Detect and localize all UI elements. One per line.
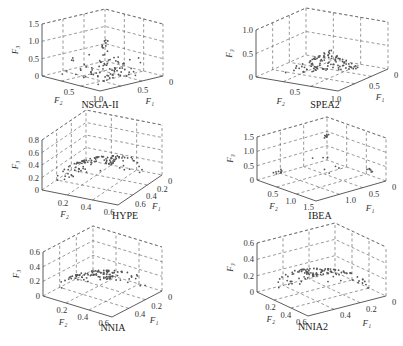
f1-axis-label: F₁: [144, 96, 154, 106]
svg-text:1.0: 1.0: [93, 94, 104, 104]
grid-lines: [256, 8, 388, 86]
axes-frame: [42, 140, 162, 205]
data-points: [60, 269, 146, 288]
z-axis-ticks: 00.51.01.5: [243, 132, 254, 185]
z-axis-label: F₃: [225, 263, 235, 273]
figure-canvas: NSGA-II 00.51.01.5F₃0.51.0F₂00.5F₁ SPEA2…: [0, 0, 403, 346]
z-axis-label: F₃: [11, 270, 21, 280]
svg-text:0: 0: [394, 70, 398, 80]
grid-lines: [42, 110, 162, 200]
f1-axis-label: F₁: [149, 315, 159, 325]
svg-text:0.6: 0.6: [104, 207, 115, 217]
z-axis-label: F₃: [224, 49, 234, 59]
svg-text:0.2: 0.2: [58, 198, 69, 208]
svg-text:0.2: 0.2: [366, 304, 377, 314]
svg-text:0.2: 0.2: [151, 301, 162, 311]
z-axis-ticks: 00.20.40.6: [243, 238, 254, 297]
grid-lines: [43, 226, 162, 310]
svg-text:0.4: 0.4: [28, 160, 39, 170]
svg-text:0.4: 0.4: [243, 254, 254, 264]
svg-text:1.0: 1.0: [28, 36, 39, 46]
subplot-nnia: NNIA 00.20.40.6F₃0.20.40.6F₂00.20.4F₁: [11, 226, 172, 333]
svg-text:0.2: 0.2: [28, 173, 39, 183]
svg-text:0: 0: [168, 292, 172, 302]
svg-text:1.0: 1.0: [285, 196, 296, 206]
svg-text:0: 0: [35, 71, 39, 81]
svg-text:0.4: 0.4: [81, 202, 92, 212]
svg-text:0.6: 0.6: [135, 199, 146, 209]
f2-axis-label: F₂: [58, 317, 68, 327]
svg-text:0.6: 0.6: [296, 317, 307, 327]
svg-text:1.5: 1.5: [243, 132, 254, 142]
subplot-spea2: SPEA2 00.51.0F₃0.51.0F₂00.5F₁: [224, 8, 398, 110]
svg-text:0.6: 0.6: [243, 238, 254, 248]
f1-axis-label: F₁: [361, 318, 371, 328]
svg-text:0.4: 0.4: [135, 309, 146, 319]
f1-axis-label: F₁: [375, 92, 385, 102]
svg-text:0: 0: [36, 291, 40, 301]
svg-text:0: 0: [392, 297, 396, 307]
f1-axis-label: F₁: [365, 203, 375, 213]
z-axis-label: F₃: [225, 154, 235, 164]
svg-text:0.2: 0.2: [265, 302, 276, 312]
svg-text:0.5: 0.5: [369, 189, 380, 199]
svg-text:0: 0: [250, 287, 254, 297]
f1-axis-ticks: 00.5: [138, 77, 174, 95]
subplot-ibea: IBEA 00.51.01.5F₃0.51.01.5F₂00.51.0F₁: [225, 117, 396, 221]
svg-text:0.5: 0.5: [242, 49, 253, 59]
subplot-nnia2: NNIA2 00.20.40.6F₃0.20.40.6F₂00.20.4F₁: [225, 223, 396, 332]
svg-text:1.0: 1.0: [242, 25, 253, 35]
svg-text:1.0: 1.0: [345, 195, 356, 205]
svg-text:0.2: 0.2: [57, 305, 68, 315]
svg-text:0: 0: [169, 77, 173, 87]
svg-text:0.6: 0.6: [28, 148, 39, 158]
svg-text:0.2: 0.2: [29, 276, 40, 286]
f2-axis-label: F₂: [268, 201, 278, 211]
svg-text:0.6: 0.6: [29, 247, 40, 257]
z-axis-label: F₃: [10, 161, 20, 171]
svg-text:1.5: 1.5: [303, 202, 314, 212]
grid-lines: [257, 117, 386, 194]
subplot-hype: HYPE 00.20.40.60.8F₃0.20.40.6F₂00.20.40.…: [10, 110, 172, 221]
svg-text:0: 0: [392, 182, 396, 192]
svg-text:0: 0: [35, 185, 39, 195]
svg-text:0.2: 0.2: [157, 184, 168, 194]
svg-text:1.5: 1.5: [28, 19, 39, 29]
svg-text:0.5: 0.5: [243, 161, 254, 171]
subplot-nsga2: NSGA-II 00.51.01.5F₃0.51.0F₂00.5F₁: [10, 9, 173, 110]
svg-text:0.6: 0.6: [98, 318, 109, 328]
z-axis-ticks: 00.20.40.6: [29, 247, 40, 301]
svg-text:0.5: 0.5: [64, 87, 75, 97]
z-axis-ticks: 00.20.40.60.8: [28, 135, 39, 195]
svg-text:1.0: 1.0: [243, 146, 254, 156]
z-axis-label: F₃: [10, 46, 20, 56]
svg-text:0.2: 0.2: [243, 271, 254, 281]
f1-axis-ticks: 00.5: [369, 70, 398, 91]
svg-text:0.4: 0.4: [29, 262, 40, 272]
z-axis-ticks: 00.51.01.5: [28, 19, 39, 81]
data-points: [273, 134, 374, 175]
f2-axis-label: F₂: [266, 314, 276, 324]
svg-text:0.5: 0.5: [138, 85, 149, 95]
svg-text:0.5: 0.5: [28, 54, 39, 64]
f2-axis-label: F₂: [275, 96, 285, 106]
svg-text:0.4: 0.4: [146, 191, 157, 201]
f1-axis-label: F₁: [151, 201, 161, 211]
svg-text:0.5: 0.5: [268, 189, 279, 199]
svg-text:0.4: 0.4: [281, 310, 292, 320]
svg-text:0.4: 0.4: [78, 312, 89, 322]
svg-text:0: 0: [250, 175, 254, 185]
z-axis-ticks: 00.51.0: [242, 25, 253, 82]
svg-text:0.5: 0.5: [290, 87, 301, 97]
subplot-title: HYPE: [112, 210, 138, 221]
svg-text:0.4: 0.4: [340, 310, 351, 320]
svg-text:0.5: 0.5: [369, 81, 380, 91]
svg-text:0: 0: [249, 72, 253, 82]
svg-text:0.8: 0.8: [28, 135, 39, 145]
grid-lines: [257, 223, 386, 309]
svg-text:0: 0: [168, 176, 172, 186]
f2-axis-label: F₂: [53, 95, 63, 105]
svg-text:1.0: 1.0: [331, 94, 342, 104]
f2-axis-label: F₂: [59, 209, 69, 219]
